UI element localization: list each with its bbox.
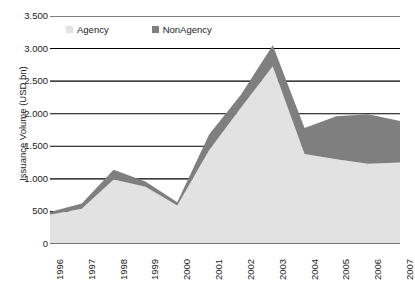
y-axis-tick-label: 3.500 xyxy=(8,11,48,21)
x-axis-tick-label: 2005 xyxy=(340,259,351,280)
x-axis-tick-label: 1996 xyxy=(54,259,65,280)
plot-svg xyxy=(50,16,400,244)
y-axis-tick-label: 2.000 xyxy=(8,109,48,119)
x-axis-tick-label: 2002 xyxy=(245,259,256,280)
chart-legend: Agency NonAgency xyxy=(66,25,212,35)
x-axis-tick-label: 1997 xyxy=(86,259,97,280)
x-axis-tick-label: 2007 xyxy=(404,259,415,280)
x-axis-tick-label: 2004 xyxy=(309,259,320,280)
y-axis-tick-label: 2.500 xyxy=(8,76,48,86)
x-axis-tick-label: 2001 xyxy=(213,259,224,280)
x-axis-tick-label: 1999 xyxy=(149,259,160,280)
legend-item-nonagency: NonAgency xyxy=(152,25,212,35)
legend-item-agency: Agency xyxy=(66,25,109,35)
legend-label-agency: Agency xyxy=(77,25,109,35)
y-axis-tick-labels: 05001.0001.5002.0002.5003.0003.500 xyxy=(4,0,48,283)
legend-swatch-nonagency xyxy=(152,26,159,33)
x-axis-tick-label: 2000 xyxy=(181,259,192,280)
x-axis-tick-label: 2006 xyxy=(372,259,383,280)
y-axis-tick-label: 500 xyxy=(8,207,48,217)
x-axis-tick-label: 2003 xyxy=(277,259,288,280)
y-axis-tick-label: 3.000 xyxy=(8,44,48,54)
legend-swatch-agency xyxy=(66,26,73,33)
plot-area xyxy=(50,16,400,244)
y-axis-tick-label: 1.500 xyxy=(8,142,48,152)
x-axis-tick-label: 1998 xyxy=(118,259,129,280)
y-axis-tick-label: 1.000 xyxy=(8,174,48,184)
legend-label-nonagency: NonAgency xyxy=(163,25,212,35)
y-axis-tick-label: 0 xyxy=(8,239,48,249)
x-axis-tick-labels: 1996199719981999200020012002200320042005… xyxy=(50,248,410,283)
